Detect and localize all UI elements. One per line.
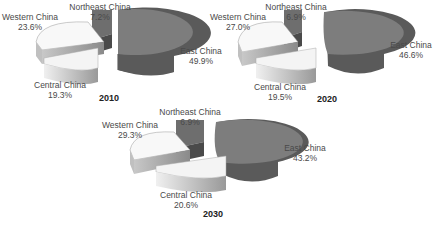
pie-chart-2020: Northeast China6.9% Western China27.0% E… bbox=[216, 0, 432, 110]
label-central-2010: Central China19.3% bbox=[30, 80, 90, 100]
label-northeast-2030: Northeast China6.9% bbox=[150, 107, 230, 127]
label-western-2020: Western China27.0% bbox=[208, 12, 268, 32]
year-label-2020: 2020 bbox=[317, 94, 337, 104]
label-east-2030: East China43.2% bbox=[280, 143, 330, 163]
label-northeast-2020: Northeast China6.9% bbox=[256, 2, 336, 22]
label-western-2030: Western China29.3% bbox=[100, 120, 160, 140]
label-northeast-2010: Northeast China7.2% bbox=[60, 2, 140, 22]
pie-chart-2030: Northeast China6.9% Western China29.3% E… bbox=[100, 110, 340, 225]
label-central-2030: Central China20.6% bbox=[156, 190, 216, 210]
pie-chart-2010: Northeast China7.2% Western China23.6% E… bbox=[0, 0, 216, 110]
year-label-2030: 2030 bbox=[203, 209, 223, 219]
label-east-2020: East China46.6% bbox=[386, 40, 436, 60]
label-western-2010: Western China23.6% bbox=[0, 12, 60, 32]
label-central-2020: Central China19.5% bbox=[250, 82, 310, 102]
year-label-2010: 2010 bbox=[99, 93, 119, 103]
